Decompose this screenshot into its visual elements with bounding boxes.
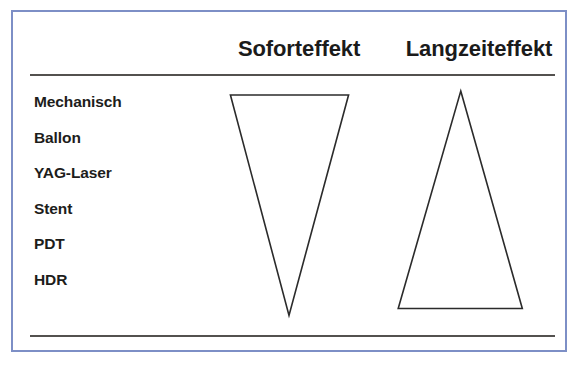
- row-label-pdt: PDT: [34, 226, 184, 262]
- soforteffekt-triangle: [230, 95, 348, 315]
- langzeiteffekt-triangle: [398, 91, 522, 308]
- footer-divider-rule: [30, 335, 555, 337]
- column-header-row: Soforteffekt Langzeiteffekt: [13, 12, 565, 74]
- figure-frame: Soforteffekt Langzeiteffekt Mechanisch B…: [11, 10, 567, 352]
- row-label-stent: Stent: [34, 191, 184, 227]
- figure-canvas: Soforteffekt Langzeiteffekt Mechanisch B…: [0, 0, 580, 365]
- column-header-soforteffekt: Soforteffekt: [220, 36, 378, 62]
- row-label-ballon: Ballon: [34, 120, 184, 156]
- header-divider-rule: [30, 74, 555, 76]
- row-label-hdr: HDR: [34, 262, 184, 298]
- column-header-langzeiteffekt: Langzeiteffekt: [395, 36, 563, 62]
- row-label-yag-laser: YAG-Laser: [34, 155, 184, 191]
- row-label-mechanisch: Mechanisch: [34, 84, 184, 120]
- row-label-column: Mechanisch Ballon YAG-Laser Stent PDT HD…: [34, 84, 184, 297]
